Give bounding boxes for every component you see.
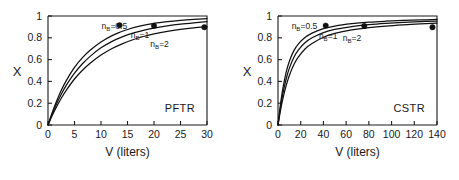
x-tick-label: 20 (148, 128, 160, 140)
reactor-type-annotation: CSTR (393, 102, 425, 114)
curve-label: nB=0.5 (102, 21, 128, 32)
x-tick-label: 25 (175, 128, 187, 140)
reactor-type-annotation: PFTR (165, 102, 195, 114)
x-tick-label: 100 (383, 128, 401, 140)
curve-label: nB=1 (319, 31, 338, 42)
y-tick-label: 0.8 (257, 31, 272, 43)
curve-label: nB=1 (131, 30, 150, 41)
x-tick-label: 120 (406, 128, 424, 140)
data-point-marker (323, 23, 328, 28)
y-tick-label: 1 (266, 10, 272, 22)
x-axis-label: V (liters) (335, 145, 380, 159)
y-axis-label: X (13, 64, 22, 79)
data-point-marker (362, 23, 367, 28)
y-tick-label: 0 (36, 119, 42, 131)
figure-container: 00.20.40.60.81051015202530V (liters)XnB=… (0, 0, 459, 180)
x-tick-label: 30 (201, 128, 213, 140)
y-tick-label: 0.4 (27, 75, 42, 87)
x-tick-label: 5 (72, 128, 78, 140)
y-axis-label: X (243, 64, 252, 79)
x-axis-label: V (liters) (105, 145, 150, 159)
pftr-plot: 00.20.40.60.81051015202530V (liters)XnB=… (0, 0, 229, 180)
x-tick-label: 10 (95, 128, 107, 140)
x-tick-label: 80 (363, 128, 375, 140)
y-tick-label: 0.6 (257, 53, 272, 65)
data-point-marker (202, 25, 207, 30)
cstr-plot: 00.20.40.60.81020406080100120140V (liter… (230, 0, 459, 180)
curve-label: nB=0.5 (292, 21, 318, 32)
x-tick-label: 15 (122, 128, 134, 140)
chart-panel-cstr: 00.20.40.60.81020406080100120140V (liter… (230, 0, 459, 180)
x-tick-label: 60 (340, 128, 352, 140)
x-tick-label: 0 (275, 128, 281, 140)
data-point-marker (151, 23, 156, 28)
y-tick-label: 0.2 (257, 97, 272, 109)
y-tick-label: 0.4 (257, 75, 272, 87)
chart-panel-pftr: 00.20.40.60.81051015202530V (liters)XnB=… (0, 0, 229, 180)
x-tick-label: 20 (295, 128, 307, 140)
y-tick-label: 0.2 (27, 97, 42, 109)
x-tick-label: 0 (45, 128, 51, 140)
data-point-marker (430, 25, 435, 30)
curve-label: nB=2 (343, 33, 362, 44)
y-tick-label: 1 (36, 10, 42, 22)
y-tick-label: 0 (266, 119, 272, 131)
x-tick-label: 140 (428, 128, 446, 140)
curve-label: nB=2 (150, 39, 169, 50)
x-tick-label: 40 (318, 128, 330, 140)
y-tick-label: 0.6 (27, 53, 42, 65)
y-tick-label: 0.8 (27, 31, 42, 43)
